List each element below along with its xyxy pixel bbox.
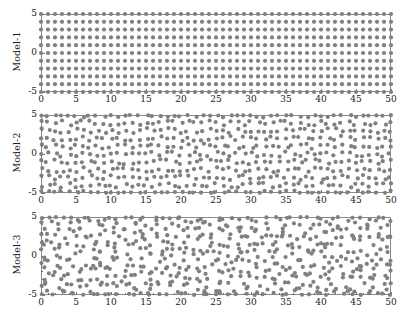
x-tick-minor — [55, 90, 56, 92]
x-tick-minor — [167, 293, 168, 295]
x-tick-minor — [230, 191, 231, 193]
y-tick-minor — [41, 224, 43, 225]
x-tick-minor — [335, 90, 336, 92]
x-tick-major — [356, 190, 357, 194]
x-tick-label: 5 — [62, 195, 90, 205]
y-tick-minor — [41, 161, 43, 162]
y-tick-minor — [41, 37, 43, 38]
y-tick-minor — [41, 263, 43, 264]
x-tick-minor — [265, 293, 266, 295]
y-tick-minor — [41, 271, 43, 272]
x-tick-minor — [223, 191, 224, 193]
x-tick-minor — [132, 90, 133, 92]
x-tick-minor — [104, 191, 105, 193]
x-tick-minor — [83, 293, 84, 295]
x-tick-major — [76, 89, 77, 93]
x-tick-minor — [153, 191, 154, 193]
x-tick-label: 30 — [237, 297, 265, 307]
x-tick-minor — [223, 293, 224, 295]
x-tick-label: 35 — [272, 195, 300, 205]
x-tick-label: 25 — [202, 94, 230, 104]
x-tick-minor — [384, 293, 385, 295]
x-tick-minor — [90, 293, 91, 295]
x-tick-label: 10 — [97, 94, 125, 104]
x-tick-minor — [83, 90, 84, 92]
y-tick-minor — [41, 21, 43, 22]
x-tick-major — [76, 190, 77, 194]
x-tick-major — [321, 292, 322, 296]
x-tick-minor — [230, 90, 231, 92]
x-tick-minor — [377, 293, 378, 295]
y-tick-major — [41, 295, 45, 296]
y-tick-major — [41, 14, 45, 15]
x-tick-minor — [314, 191, 315, 193]
x-tick-major — [286, 190, 287, 194]
x-tick-minor — [384, 90, 385, 92]
x-tick-label: 5 — [62, 94, 90, 104]
x-tick-minor — [97, 191, 98, 193]
x-tick-major — [251, 292, 252, 296]
plot-frame-2 — [41, 115, 391, 193]
x-tick-major — [181, 190, 182, 194]
x-tick-minor — [174, 293, 175, 295]
x-tick-minor — [300, 90, 301, 92]
x-tick-major — [111, 292, 112, 296]
x-tick-minor — [62, 293, 63, 295]
x-tick-label: 15 — [132, 195, 160, 205]
y-tick-label: 0 — [7, 148, 37, 158]
x-tick-minor — [363, 293, 364, 295]
x-tick-major — [146, 89, 147, 93]
x-tick-major — [181, 292, 182, 296]
y-tick-minor — [41, 84, 43, 85]
x-tick-minor — [314, 90, 315, 92]
x-tick-major — [286, 89, 287, 93]
x-tick-minor — [279, 90, 280, 92]
x-tick-minor — [83, 191, 84, 193]
y-tick-minor — [41, 279, 43, 280]
x-tick-minor — [69, 293, 70, 295]
y-tick-minor — [41, 68, 43, 69]
x-tick-label: 20 — [167, 94, 195, 104]
y-tick-major — [41, 193, 45, 194]
x-tick-minor — [62, 191, 63, 193]
x-tick-minor — [160, 191, 161, 193]
x-tick-minor — [293, 191, 294, 193]
x-tick-minor — [377, 191, 378, 193]
x-tick-label: 45 — [342, 195, 370, 205]
x-tick-major — [146, 292, 147, 296]
x-tick-major — [286, 292, 287, 296]
x-tick-major — [356, 292, 357, 296]
plot-frame-1 — [41, 14, 391, 92]
x-tick-minor — [209, 191, 210, 193]
x-tick-label: 10 — [97, 297, 125, 307]
x-tick-label: 50 — [377, 297, 405, 307]
x-tick-minor — [188, 90, 189, 92]
x-tick-label: 50 — [377, 195, 405, 205]
x-tick-label: 30 — [237, 94, 265, 104]
x-tick-major — [356, 89, 357, 93]
x-tick-minor — [370, 191, 371, 193]
x-tick-major — [111, 89, 112, 93]
x-tick-minor — [125, 191, 126, 193]
x-tick-minor — [48, 191, 49, 193]
x-tick-label: 40 — [307, 94, 335, 104]
x-tick-minor — [328, 191, 329, 193]
x-tick-minor — [188, 191, 189, 193]
x-tick-minor — [139, 293, 140, 295]
x-tick-label: 25 — [202, 195, 230, 205]
x-tick-minor — [174, 191, 175, 193]
x-tick-minor — [349, 90, 350, 92]
x-tick-minor — [363, 191, 364, 193]
x-tick-label: 20 — [167, 297, 195, 307]
x-tick-label: 40 — [307, 195, 335, 205]
x-tick-major — [251, 89, 252, 93]
y-tick-minor — [41, 232, 43, 233]
x-tick-label: 40 — [307, 297, 335, 307]
x-tick-major — [216, 89, 217, 93]
x-tick-label: 30 — [237, 195, 265, 205]
x-tick-minor — [335, 191, 336, 193]
figure-root: Model-1-50505101520253035404550Model-2-5… — [0, 0, 410, 323]
x-tick-minor — [293, 90, 294, 92]
x-tick-minor — [118, 293, 119, 295]
x-tick-major — [216, 190, 217, 194]
